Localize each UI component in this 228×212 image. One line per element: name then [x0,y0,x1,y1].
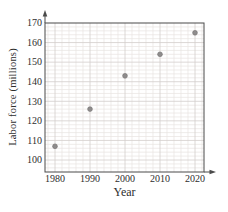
labor-force-scatter-figure: 1980199020002010202010011012013014015016… [0,0,228,212]
y-tick-label-150: 150 [27,56,42,67]
data-point-2000 [123,73,128,78]
y-tick-label-130: 130 [27,96,42,107]
x-axis-title: Year [45,185,204,200]
y-axis-title: Labor force (millions) [7,48,18,146]
y-tick-label-140: 140 [27,76,42,87]
y-tick-label-120: 120 [27,115,42,126]
data-point-1980 [53,144,58,149]
y-tick-label-160: 160 [27,37,42,48]
data-point-2010 [158,52,163,57]
x-tick-label-2010: 2010 [150,173,170,184]
x-tick-label-2000: 2000 [115,173,135,184]
x-tick-label-2020: 2020 [185,173,205,184]
y-tick-label-170: 170 [27,17,42,28]
x-tick-label-1980: 1980 [45,173,65,184]
data-point-1990 [88,107,93,112]
x-tick-label-1990: 1990 [80,173,100,184]
chart-canvas: 1980199020002010202010011012013014015016… [0,0,228,212]
y-tick-label-100: 100 [27,154,42,165]
x-axis-arrowhead [210,170,217,175]
y-axis-arrowhead [43,10,48,17]
data-point-2020 [193,30,198,35]
y-tick-label-110: 110 [27,135,42,146]
